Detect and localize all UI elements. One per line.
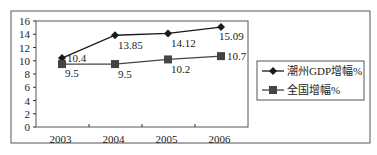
legend-label: 全国增幅%	[287, 83, 340, 96]
legend: 潮州GDP增幅%全国增幅%	[257, 61, 364, 100]
square-marker	[217, 52, 225, 60]
data-label: 9.5	[118, 68, 132, 80]
y-tick-label: 16	[19, 15, 31, 27]
square-marker	[164, 55, 172, 63]
y-tick-label: 4	[25, 95, 31, 107]
data-label: 10.7	[227, 50, 247, 62]
data-label: 10.4	[67, 52, 87, 64]
y-tick-label: 0	[25, 121, 31, 133]
y-tick-label: 2	[25, 108, 31, 120]
x-tick-label: 2004	[103, 133, 126, 145]
data-label: 14.12	[171, 37, 196, 49]
data-label: 13.85	[118, 39, 143, 51]
square-marker	[111, 60, 119, 68]
x-tick-label: 2003	[50, 133, 73, 145]
x-tick-label: 2005	[156, 133, 179, 145]
data-label: 10.2	[171, 63, 190, 75]
line-chart: 02468101214162003200420052006 10.413.851…	[0, 0, 377, 155]
y-tick-label: 12	[19, 42, 30, 54]
y-tick-label: 14	[19, 28, 31, 40]
data-label: 9.5	[65, 67, 79, 79]
y-tick-label: 10	[19, 55, 31, 67]
y-tick-label: 6	[25, 81, 31, 93]
x-tick-label: 2006	[209, 133, 232, 145]
legend-label: 潮州GDP增幅%	[287, 64, 362, 77]
data-label: 15.09	[219, 30, 244, 42]
square-marker	[269, 86, 277, 94]
y-tick-label: 8	[25, 68, 31, 80]
